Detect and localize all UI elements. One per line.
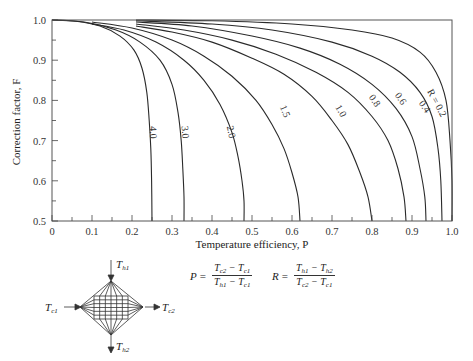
x-tick-label: 0.4 — [205, 226, 219, 237]
p-fraction: Tc2 − Tc1 Th1 − Tc1 — [212, 262, 252, 289]
curve-2.0 — [92, 24, 244, 221]
crossflow-diagram — [64, 260, 160, 353]
p-symbol: P — [190, 270, 197, 282]
y-tick-label: 0.7 — [33, 136, 46, 147]
curve-0.4 — [136, 21, 442, 221]
axes: 00.10.20.30.40.50.60.70.80.91.00.50.60.7… — [33, 15, 459, 237]
equals-sign: = — [200, 270, 206, 282]
p-formula: P = Tc2 − Tc1 Th1 − Tc1 — [190, 262, 255, 289]
r-formula: R = Th1 − Th2 Tc2 − Tc1 — [272, 262, 338, 289]
x-axis-title: Temperature efficiency, P — [196, 238, 309, 250]
equals-sign: = — [282, 270, 288, 282]
th1-label: Th1 — [116, 258, 129, 272]
r-fraction: Th1 − Th2 Tc2 − Tc1 — [294, 262, 335, 289]
tc1-label: Tc1 — [45, 301, 58, 315]
x-tick-label: 1.0 — [445, 226, 458, 237]
x-tick-label: 0.7 — [325, 226, 338, 237]
x-tick-label: 0.1 — [85, 226, 98, 237]
x-tick-label: 0.6 — [285, 226, 298, 237]
y-tick-label: 1.0 — [33, 15, 46, 26]
y-tick-label: 0.6 — [33, 176, 46, 187]
curve-label: 1.5 — [278, 103, 293, 119]
curve-label: 0.8 — [367, 92, 383, 109]
x-tick-label: 0.9 — [405, 226, 418, 237]
curve-label: 0.6 — [393, 90, 409, 107]
curve-label: 1.0 — [333, 103, 349, 119]
x-tick-label: 0.8 — [365, 226, 378, 237]
x-tick-label: 0.2 — [125, 226, 138, 237]
tc2-label: Tc2 — [162, 301, 175, 315]
curve-1.0 — [136, 26, 372, 221]
plot-frame — [52, 20, 452, 221]
th2-label: Th2 — [116, 340, 130, 354]
x-tick-label: 0.3 — [165, 226, 178, 237]
r-symbol: R — [272, 270, 279, 282]
plot-area: R = 0.20.40.60.81.01.52.03.04.0 — [52, 20, 452, 221]
curve-label: 2.0 — [225, 125, 238, 140]
y-axis-title: Correction factor, F — [10, 79, 22, 166]
curve-3.0 — [52, 20, 184, 221]
curve-label: 3.0 — [179, 126, 191, 139]
y-tick-label: 0.9 — [33, 55, 46, 66]
y-tick-label: 0.8 — [33, 95, 46, 106]
curve-4.0 — [52, 20, 152, 221]
correction-factor-chart: R = 0.20.40.60.81.01.52.03.04.0 00.10.20… — [0, 0, 473, 361]
y-tick-label: 0.5 — [33, 216, 46, 227]
x-tick-label: 0.5 — [245, 226, 258, 237]
curve-label: 4.0 — [148, 126, 159, 139]
x-tick-label: 0 — [49, 226, 54, 237]
